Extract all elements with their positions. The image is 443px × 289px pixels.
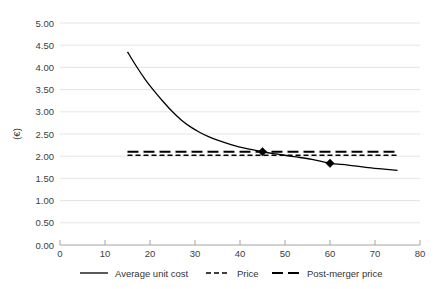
chart-svg: 5.00 4.50 4.00 3.50 3.00 2.50 2.00 1.50 … bbox=[0, 0, 443, 289]
x-tick-label: 40 bbox=[235, 248, 246, 259]
y-tick-label: 4.00 bbox=[36, 62, 55, 73]
x-tick-label: 10 bbox=[100, 248, 111, 259]
y-tick-label: 1.50 bbox=[36, 173, 55, 184]
x-tick-label: 0 bbox=[57, 248, 62, 259]
gridlines bbox=[60, 23, 420, 223]
x-tick-label: 80 bbox=[415, 248, 426, 259]
x-axis-tickmarks bbox=[60, 240, 420, 245]
x-axis-tick-labels: 0 10 20 30 40 50 60 70 80 bbox=[57, 248, 425, 259]
x-tick-label: 70 bbox=[370, 248, 381, 259]
x-tick-label: 50 bbox=[280, 248, 291, 259]
legend-label-post-merger-price: Post-merger price bbox=[307, 268, 383, 279]
x-tick-label: 20 bbox=[145, 248, 156, 259]
legend-label-price: Price bbox=[237, 268, 259, 279]
legend-label-average-unit-cost: Average unit cost bbox=[115, 268, 189, 279]
chart-container: 5.00 4.50 4.00 3.50 3.00 2.50 2.00 1.50 … bbox=[0, 0, 443, 289]
y-tick-label: 4.50 bbox=[36, 40, 55, 51]
y-axis-title: (€) bbox=[11, 128, 22, 140]
y-tick-label: 3.00 bbox=[36, 106, 55, 117]
y-axis-tick-labels: 5.00 4.50 4.00 3.50 3.00 2.50 2.00 1.50 … bbox=[36, 18, 55, 251]
marker-post-merger-equilibrium bbox=[326, 159, 334, 167]
y-tick-label: 3.50 bbox=[36, 84, 55, 95]
y-tick-label: 1.00 bbox=[36, 195, 55, 206]
chart-legend: Average unit cost Price Post-merger pric… bbox=[80, 268, 383, 279]
x-tick-label: 30 bbox=[190, 248, 201, 259]
x-tick-label: 60 bbox=[325, 248, 336, 259]
y-tick-label: 0.00 bbox=[36, 240, 55, 251]
y-tick-label: 2.00 bbox=[36, 151, 55, 162]
y-tick-label: 5.00 bbox=[36, 18, 55, 29]
y-tick-label: 0.50 bbox=[36, 217, 55, 228]
y-tick-label: 2.50 bbox=[36, 129, 55, 140]
